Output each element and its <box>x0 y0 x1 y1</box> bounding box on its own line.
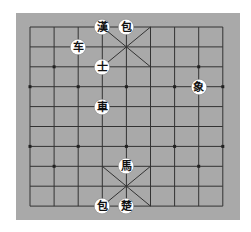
piece-top-cannon[interactable]: 包 <box>119 20 134 35</box>
piece-bottom-cannon[interactable]: 包 <box>95 199 110 214</box>
piece-top-chariot[interactable]: 车 <box>71 39 86 54</box>
piece-bottom-chariot[interactable]: 車 <box>95 99 110 114</box>
xiangqi-board[interactable] <box>16 13 240 220</box>
piece-bottom-general[interactable]: 楚 <box>119 199 134 214</box>
piece-top-advisor[interactable]: 士 <box>95 59 110 74</box>
piece-bottom-horse[interactable]: 馬 <box>119 159 134 174</box>
board-grid <box>16 13 240 220</box>
piece-top-general[interactable]: 漢 <box>95 20 110 35</box>
piece-top-elephant[interactable]: 象 <box>191 79 206 94</box>
